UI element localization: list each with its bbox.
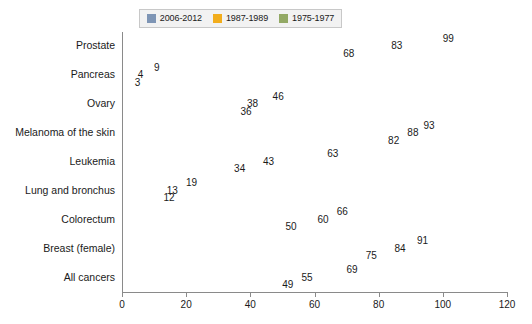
x-axis-tick (186, 292, 187, 297)
legend-label: 1987-1989 (226, 14, 268, 23)
bar-value-label: 49 (282, 280, 293, 290)
x-axis-tick (443, 292, 444, 297)
category-group: Breast (female)918475 (122, 234, 507, 263)
bar-row: 50 (122, 224, 282, 231)
x-axis-tick-label: 100 (434, 299, 451, 310)
category-label: Breast (female) (43, 243, 115, 255)
category-label: Ovary (87, 98, 115, 110)
x-axis-tick (122, 292, 123, 297)
category-group: Prostate998368 (122, 32, 507, 61)
bar-row: 34 (122, 166, 231, 173)
bar-row: 63 (122, 151, 324, 158)
bar-value-label: 82 (388, 136, 399, 146)
legend-item-1975-1977: 1975-1977 (279, 14, 334, 23)
bar-value-label: 99 (443, 34, 454, 44)
legend-item-2006-2012: 2006-2012 (147, 14, 202, 23)
bar-value-label: 50 (285, 222, 296, 232)
bar-value-label: 83 (391, 41, 402, 51)
category-group: All cancers695549 (122, 263, 507, 292)
legend-swatch-icon (147, 14, 156, 23)
bar-row: 66 (122, 209, 334, 216)
x-axis-tick (315, 292, 316, 297)
category-group: Pancreas943 (122, 61, 507, 90)
x-axis-tick-label: 120 (499, 299, 516, 310)
category-label: Leukemia (69, 156, 115, 168)
category-label: Melanoma of the skin (15, 127, 115, 139)
bar-row: 3 (122, 79, 132, 86)
bar-value-label: 55 (301, 273, 312, 283)
bar-value-label: 63 (327, 149, 338, 159)
bar-value-label: 43 (263, 157, 274, 167)
x-axis-tick-label: 20 (181, 299, 192, 310)
bar-row: 55 (122, 274, 298, 281)
bar-row: 38 (122, 101, 244, 108)
bar-row: 68 (122, 50, 340, 57)
category-label: All cancers (64, 272, 115, 284)
bar-row: 75 (122, 253, 363, 260)
bar-value-label: 46 (273, 92, 284, 102)
bar-value-label: 68 (343, 49, 354, 59)
x-axis-tick-label: 0 (119, 299, 125, 310)
legend-swatch-icon (279, 14, 288, 23)
bar-value-label: 69 (346, 265, 357, 275)
bar-row: 9 (122, 64, 151, 71)
bar-row: 49 (122, 282, 279, 289)
legend-label: 1975-1977 (292, 14, 334, 23)
bar-row: 4 (122, 72, 135, 79)
bar-value-label: 75 (366, 251, 377, 261)
bar-row: 36 (122, 108, 238, 115)
x-axis-tick (250, 292, 251, 297)
bar-row: 88 (122, 130, 404, 137)
category-label: Lung and bronchus (25, 185, 115, 197)
bar-value-label: 9 (154, 63, 160, 73)
bar-value-label: 36 (241, 107, 252, 117)
category-group: Ovary463836 (122, 90, 507, 119)
x-axis-tick (379, 292, 380, 297)
bar-value-label: 66 (337, 207, 348, 217)
bar-value-label: 34 (234, 164, 245, 174)
category-label: Colorectum (61, 214, 115, 226)
x-axis-tick-label: 80 (373, 299, 384, 310)
category-label: Prostate (76, 41, 115, 53)
legend-item-1987-1989: 1987-1989 (213, 14, 268, 23)
bar-row: 84 (122, 245, 392, 252)
bar-value-label: 84 (395, 244, 406, 254)
category-group: Melanoma of the skin938882 (122, 119, 507, 148)
bar-value-label: 91 (417, 236, 428, 246)
bar-value-label: 19 (186, 178, 197, 188)
bar-row: 91 (122, 238, 414, 245)
x-axis-tick-label: 60 (309, 299, 320, 310)
plot-area: Prostate998368Pancreas943Ovary463836Mela… (122, 32, 507, 292)
x-axis-tick-label: 40 (245, 299, 256, 310)
bar-value-label: 88 (407, 128, 418, 138)
bar-chart: 2006-2012 1987-1989 1975-1977 0204060801… (0, 0, 532, 324)
bar-row: 82 (122, 137, 385, 144)
bar-value-label: 3 (135, 78, 141, 88)
category-group: Colorectum666050 (122, 205, 507, 234)
category-group: Lung and bronchus191312 (122, 176, 507, 205)
bar-row: 12 (122, 195, 161, 202)
bar-value-label: 60 (318, 215, 329, 225)
chart-legend: 2006-2012 1987-1989 1975-1977 (139, 9, 342, 28)
x-axis-tick (507, 292, 508, 297)
category-group: Leukemia634334 (122, 148, 507, 177)
category-label: Pancreas (71, 70, 115, 82)
legend-label: 2006-2012 (160, 14, 202, 23)
bar-row: 13 (122, 187, 164, 194)
bar-value-label: 93 (423, 121, 434, 131)
legend-swatch-icon (213, 14, 222, 23)
bar-row: 93 (122, 122, 420, 129)
bar-value-label: 12 (164, 193, 175, 203)
